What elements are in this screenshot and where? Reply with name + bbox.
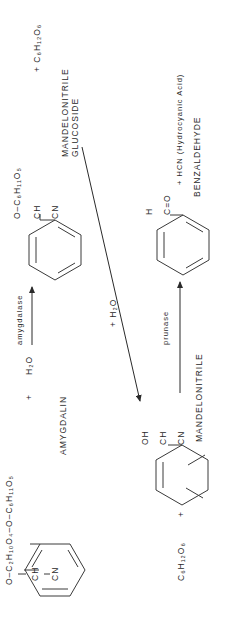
glucoside-substituent-top: O–C₆H₁₁O₅: [12, 167, 22, 219]
step1-byproduct-glucose: + C₆H₁₂O₆: [32, 24, 42, 72]
mandelonitrile-structure: OH CH CN MANDELONITRILE: [140, 353, 208, 505]
step2-reagent-water: + H₂O: [108, 299, 118, 327]
step1-enzyme-amygdalase: amygdalase: [15, 295, 24, 345]
benzene-ring-icon: [29, 220, 81, 280]
mandelonitrile-label: MANDELONITRILE: [194, 353, 204, 442]
mandelonitrile-glucoside-structure: O–C₆H₁₁O₅ CH CN MANDELONITRILE GLUCOSIDE: [12, 68, 81, 280]
step3-byproduct-hcn: + HCN (Hydrocyanic Acid): [175, 74, 184, 185]
benzaldehyde-substituent-mid: C=O: [162, 194, 172, 215]
step1-plus: +: [24, 394, 34, 400]
glucoside-substituent-mid: CH: [32, 205, 42, 219]
mandelonitrile-substituent-mid: CH: [158, 431, 168, 445]
amygdalin-label: AMYGDALIN: [58, 396, 68, 455]
amygdalin-substituent-bottom: CN: [50, 567, 60, 581]
glucoside-label-line1: MANDELONITRILE: [60, 68, 70, 157]
benzene-ring-icon: [156, 445, 208, 505]
amygdalin-structure: O–C₂H₁₀O₄–O–C₆H₁₁O₅ CH CN AMYGDALIN: [4, 396, 85, 596]
step2-arrow: [82, 147, 140, 401]
benzene-ring-icon: [157, 215, 209, 275]
glucoside-substituent-bottom: CN: [50, 205, 60, 219]
step3-byproduct-glucose: C₆H₁₂O₆: [176, 542, 186, 581]
step3-enzyme-prunase: prunase: [161, 311, 170, 345]
benzaldehyde-label: BENZALDEHYDE: [192, 117, 202, 198]
mandelonitrile-substituent-bottom: CN: [176, 431, 186, 445]
glucoside-label-line2: GLUCOSIDE: [70, 98, 80, 157]
benzaldehyde-substituent-top: H: [144, 208, 154, 215]
amygdalin-substituent-mid: CH: [30, 567, 40, 581]
amygdalin-substituent-top: O–C₂H₁₀O₄–O–C₆H₁₁O₅: [4, 475, 14, 585]
step3-plus: +: [176, 511, 186, 517]
amygdalin-hydrolysis-diagram: O–C₂H₁₀O₄–O–C₆H₁₁O₅ CH CN AMYGDALIN + H₂…: [0, 0, 229, 637]
mandelonitrile-substituent-top: OH: [140, 430, 150, 445]
step1-reagent-water: H₂O: [24, 356, 34, 375]
